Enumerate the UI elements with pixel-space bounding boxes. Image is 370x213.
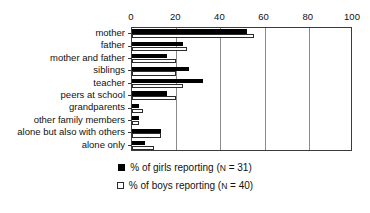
- bar-row: [132, 78, 351, 90]
- bar-girls: [132, 116, 139, 120]
- x-tick-label-40: 40: [214, 11, 225, 23]
- open-square-icon: [117, 182, 124, 189]
- x-tick-label-0: 0: [128, 11, 133, 23]
- bar-boys: [132, 59, 176, 63]
- bar-girls: [132, 91, 167, 95]
- bar-girls: [132, 79, 203, 83]
- bar-row: [132, 127, 351, 139]
- bar-row: [132, 65, 351, 77]
- y-axis-label-mother-and-father: mother and father: [50, 52, 125, 64]
- plot-area: [131, 27, 352, 151]
- x-tick-label-100: 100: [344, 11, 360, 23]
- bar-girls: [132, 141, 145, 145]
- bar-row: [132, 90, 351, 102]
- y-axis-category-labels: motherfathermother and fathersiblingstea…: [0, 27, 128, 151]
- bar-row: [132, 115, 351, 127]
- bar-boys: [132, 133, 161, 137]
- bar-boys: [132, 96, 176, 100]
- y-axis-label-father: father: [101, 39, 125, 51]
- x-tick-label-80: 80: [303, 11, 314, 23]
- legend-item-boys: % of boys reporting (N = 40): [0, 176, 370, 194]
- bar-girls: [132, 29, 247, 33]
- y-axis-label-peers-at-school: peers at school: [61, 89, 125, 101]
- bar-row: [132, 40, 351, 52]
- bar-boys: [132, 121, 139, 125]
- filled-square-icon: [118, 164, 125, 171]
- x-tick-label-20: 20: [170, 11, 181, 23]
- y-axis-label-teacher: teacher: [93, 77, 125, 89]
- legend-item-girls: % of girls reporting (N = 31): [0, 158, 370, 176]
- bar-girls: [132, 129, 161, 133]
- bar-girls: [132, 42, 183, 46]
- bar-girls: [132, 54, 167, 58]
- bar-boys: [132, 34, 254, 38]
- bar-boys: [132, 84, 183, 88]
- chart-container: 020406080100 motherfathermother and fath…: [0, 0, 370, 213]
- y-axis-label-grandparents: grandparents: [69, 101, 125, 113]
- y-axis-label-alone-but-also-with-others: alone but also with others: [17, 126, 125, 138]
- chart-legend: % of girls reporting (N = 31)% of boys r…: [0, 158, 370, 194]
- legend-label: % of boys reporting (N = 40): [129, 180, 253, 191]
- x-axis-tick-labels: 020406080100: [131, 11, 352, 25]
- bar-row: [132, 28, 351, 40]
- bar-boys: [132, 146, 154, 150]
- y-axis-label-siblings: siblings: [93, 64, 125, 76]
- bar-boys: [132, 71, 176, 75]
- bar-row: [132, 102, 351, 114]
- bar-girls: [132, 67, 189, 71]
- y-axis-label-other-family-members: other family members: [34, 114, 125, 126]
- bar-boys: [132, 109, 143, 113]
- bar-boys: [132, 47, 187, 51]
- bar-girls: [132, 104, 139, 108]
- bar-row: [132, 53, 351, 65]
- bar-row: [132, 140, 351, 152]
- legend-label: % of girls reporting (N = 31): [130, 162, 251, 173]
- x-tick-label-60: 60: [258, 11, 269, 23]
- y-axis-label-mother: mother: [95, 27, 125, 39]
- y-axis-label-alone-only: alone only: [82, 139, 125, 151]
- bar-rows: [132, 28, 351, 150]
